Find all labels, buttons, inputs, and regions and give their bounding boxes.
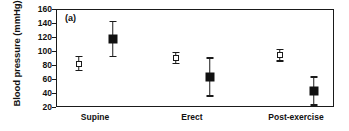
data-point-group [112, 0, 113, 131]
error-bar-cap [206, 95, 213, 97]
y-tick-mark [52, 23, 56, 24]
error-bar-cap [172, 63, 179, 65]
error-bar-cap [206, 57, 213, 59]
y-tick-mark [52, 79, 56, 80]
figure-panel-a: Blood pressure (mmHg) 160140120100806040… [0, 0, 349, 131]
y-tick-label: 40 [30, 89, 52, 97]
y-tick-mark [52, 51, 56, 52]
data-point-group [78, 0, 79, 131]
x-category-label: Erect [181, 112, 202, 122]
error-bar-cap [310, 104, 317, 106]
y-tick-label: 140 [30, 19, 52, 27]
filled-square-marker [108, 35, 117, 44]
error-bar-cap [75, 70, 82, 72]
open-square-marker [76, 61, 82, 67]
y-tick-mark [52, 93, 56, 94]
x-category-label: Post-exercise [268, 112, 323, 122]
y-tick-label: 160 [30, 5, 52, 13]
y-tick-label: 80 [30, 61, 52, 69]
y-tick-label: 100 [30, 47, 52, 55]
y-axis-tick-labels: 16014012010080604020 [28, 0, 52, 131]
error-bar-cap [109, 21, 116, 23]
y-tick-label: 120 [30, 33, 52, 41]
open-square-marker [277, 52, 283, 58]
error-bar-cap [276, 49, 283, 51]
panel-label: (a) [65, 13, 76, 23]
error-bar-cap [172, 52, 179, 54]
y-tick-mark [52, 9, 56, 10]
data-point-group [175, 0, 176, 131]
y-tick-label: 60 [30, 75, 52, 83]
y-tick-label: 20 [30, 103, 52, 111]
y-tick-mark [52, 37, 56, 38]
plot-area: (a) [56, 9, 334, 107]
y-axis-title: Blood pressure (mmHg) [11, 0, 22, 114]
filled-square-marker [309, 86, 318, 95]
error-bar-cap [310, 76, 317, 78]
error-bar-cap [75, 56, 82, 58]
error-bar-cap [109, 56, 116, 58]
y-tick-mark [52, 107, 56, 108]
data-point-group [209, 0, 210, 131]
x-category-label: Supine [81, 112, 109, 122]
y-tick-mark [52, 65, 56, 66]
open-square-marker [173, 55, 179, 61]
filled-square-marker [205, 72, 214, 81]
error-bar-cap [276, 60, 283, 62]
